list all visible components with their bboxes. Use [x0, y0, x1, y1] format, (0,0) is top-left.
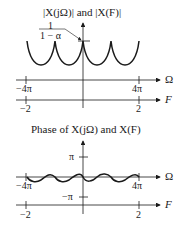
magnitude-title: |X(jΩ)| and |X(F)| [43, 7, 121, 18]
magnitude-f-tick-neg: −2 [20, 104, 31, 114]
phase-plot [16, 141, 160, 214]
phase-neg-pi-tick: −π [62, 192, 73, 202]
phase-omega-tick-pos: 4π [132, 181, 142, 191]
phase-title: Phase of X(jΩ) and X(F) [31, 124, 141, 135]
magnitude-f-label: F [165, 94, 172, 105]
peak-label-denominator: 1 − α [40, 31, 61, 41]
phase-omega-tick-neg: −4π [16, 181, 32, 191]
magnitude-f-tick-pos: 2 [136, 104, 141, 114]
magnitude-plot [16, 23, 160, 108]
phase-f-tick-neg: −2 [20, 210, 31, 220]
phase-f-label: F [165, 199, 172, 210]
diagram-canvas [0, 0, 183, 239]
phase-f-tick-pos: 2 [136, 210, 141, 220]
phase-pi-tick: π [69, 152, 74, 162]
magnitude-omega-label: Ω [165, 74, 173, 85]
phase-omega-label: Ω [165, 171, 173, 182]
magnitude-omega-tick-pos: 4π [132, 84, 142, 94]
magnitude-omega-tick-neg: −4π [16, 84, 32, 94]
